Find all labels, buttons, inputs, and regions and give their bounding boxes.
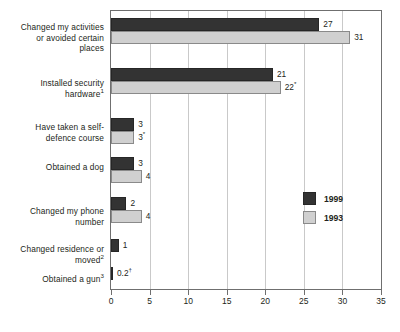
category-label: Changed my phonenumber — [0, 206, 104, 227]
bar-value-label: 4 — [146, 210, 151, 223]
legend-swatch — [303, 192, 316, 205]
x-axis-tick-label: 5 — [147, 296, 152, 306]
bar — [111, 267, 113, 280]
bar — [111, 239, 119, 252]
bar-value-label: 3 — [138, 157, 143, 170]
bar — [111, 68, 273, 81]
bar — [111, 18, 319, 31]
x-axis-tick-label: 20 — [261, 296, 270, 306]
category-label: Have taken a self-defence course — [0, 122, 104, 143]
x-axis-tick-label: 15 — [222, 296, 231, 306]
bar — [111, 197, 126, 210]
x-axis-tick-labels: 05101520253035 — [110, 296, 382, 310]
bar-value-label: 3 — [138, 118, 143, 131]
bar — [111, 31, 350, 44]
bar — [111, 170, 142, 183]
x-axis-tick — [265, 290, 266, 295]
x-axis-tick-label: 30 — [338, 296, 347, 306]
legend-item[interactable]: 1993 — [303, 209, 373, 226]
chart-legend: 19991993 — [303, 190, 373, 228]
bar-chart: Changed my activitiesor avoided certainp… — [0, 0, 400, 332]
x-axis-tick-label: 10 — [183, 296, 192, 306]
bar — [111, 118, 134, 131]
category-label: Installed securityhardware1 — [0, 78, 104, 99]
x-axis-tick — [150, 290, 151, 295]
bar-value-label: 0.2† — [117, 267, 132, 280]
x-axis-tick — [111, 290, 112, 295]
x-axis-tick — [342, 290, 343, 295]
bar-value-label: 22* — [285, 81, 297, 94]
bar-value-label: 1 — [123, 239, 128, 252]
legend-item[interactable]: 1999 — [303, 190, 373, 207]
category-label: Obtained a gun3 — [0, 274, 104, 285]
category-label: Changed my activitiesor avoided certainp… — [0, 22, 104, 54]
bar-value-label: 27 — [323, 18, 332, 31]
bar — [111, 157, 134, 170]
x-axis-tick — [304, 290, 305, 295]
x-axis-tick — [188, 290, 189, 295]
category-axis-labels: Changed my activitiesor avoided certainp… — [0, 10, 104, 290]
legend-label: 1993 — [324, 213, 343, 223]
legend-label: 1999 — [324, 194, 343, 204]
bar-value-label: 4 — [146, 170, 151, 183]
bar — [111, 81, 281, 94]
x-axis-tick — [381, 290, 382, 295]
bar-value-label: 21 — [277, 68, 286, 81]
category-label: Obtained a dog — [0, 162, 104, 173]
category-label: Changed residence ormoved2 — [0, 244, 104, 265]
bar — [111, 210, 142, 223]
bars-layer: 272133210.2†3122*3*44 — [111, 11, 381, 289]
bar-value-label: 31 — [354, 31, 363, 44]
bar-value-label: 2 — [130, 197, 135, 210]
x-axis-tick-label: 25 — [299, 296, 308, 306]
bar — [111, 131, 134, 144]
x-axis-tick-label: 0 — [109, 296, 114, 306]
bar-value-label: 3* — [138, 131, 145, 144]
x-axis-tick — [227, 290, 228, 295]
legend-swatch — [303, 211, 316, 224]
x-axis-tick-label: 35 — [376, 296, 385, 306]
